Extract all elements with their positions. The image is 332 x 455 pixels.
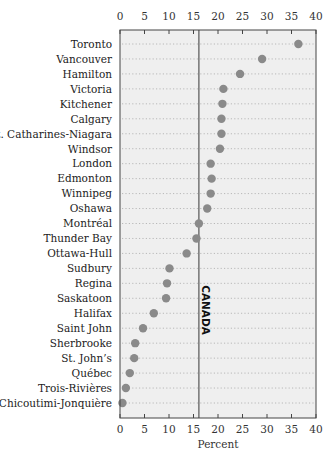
data-dot <box>294 40 302 48</box>
data-dot <box>218 100 226 108</box>
tick-label: 10 <box>162 423 175 435</box>
city-label: Calgary <box>70 113 112 125</box>
data-dot <box>206 159 214 167</box>
city-label: London <box>72 157 112 169</box>
tick-label: 35 <box>285 423 298 435</box>
city-label: Trois-Rivières <box>38 382 112 394</box>
dot-plot-chart: 0510152025303540 0510152025303540 CANADA… <box>0 0 332 455</box>
tick-label: 20 <box>211 423 224 435</box>
tick-label: 15 <box>187 10 200 22</box>
data-dot <box>182 249 190 257</box>
city-label: Ottawa-Hull <box>47 247 112 259</box>
city-label: Hamilton <box>63 68 113 80</box>
x-axis-title: Percent <box>198 438 240 450</box>
city-label: St. Catharines-Niagara <box>0 128 112 140</box>
tick-label: 5 <box>141 423 148 435</box>
tick-label: 40 <box>309 10 322 22</box>
tick-label: 30 <box>260 10 273 22</box>
city-label: Kitchener <box>60 98 113 110</box>
tick-label: 0 <box>117 423 124 435</box>
city-label: Chicoutimi-Jonquière <box>0 397 112 409</box>
tick-label: 25 <box>236 423 249 435</box>
city-label: Sherbrooke <box>50 337 112 349</box>
data-dot <box>217 115 225 123</box>
city-label: Thunder Bay <box>44 232 113 244</box>
city-label: Oshawa <box>70 202 112 214</box>
city-label: Saint John <box>57 322 112 334</box>
city-label: Regina <box>75 277 112 289</box>
city-label: Montréal <box>63 217 113 229</box>
data-dot <box>195 219 203 227</box>
data-dot <box>162 294 170 302</box>
data-dot <box>150 309 158 317</box>
city-label: Edmonton <box>57 172 112 184</box>
tick-label: 10 <box>162 10 175 22</box>
data-dot <box>206 189 214 197</box>
data-dot <box>203 204 211 212</box>
city-label: Saskatoon <box>57 292 112 304</box>
city-label: Winnipeg <box>61 187 112 199</box>
city-label: Vancouver <box>55 53 113 65</box>
city-label: Victoria <box>69 83 112 95</box>
data-dot <box>219 85 227 93</box>
tick-label: 35 <box>285 10 298 22</box>
city-label: Toronto <box>71 38 112 50</box>
city-label: Québec <box>72 367 113 379</box>
canada-reference-label: CANADA <box>200 285 212 335</box>
data-dot <box>207 174 215 182</box>
data-dot <box>258 55 266 63</box>
data-dot <box>122 384 130 392</box>
city-labels: TorontoVancouverHamiltonVictoriaKitchene… <box>0 38 113 409</box>
tick-label: 0 <box>117 10 124 22</box>
city-label: St. John’s <box>61 352 112 364</box>
city-label: Sudbury <box>67 262 112 274</box>
tick-label: 15 <box>187 423 200 435</box>
data-dot <box>165 264 173 272</box>
data-dot <box>163 279 171 287</box>
data-dot <box>126 369 134 377</box>
data-dot <box>139 324 147 332</box>
data-dot <box>217 130 225 138</box>
data-dot <box>131 339 139 347</box>
data-dot <box>192 234 200 242</box>
data-dot <box>130 354 138 362</box>
tick-label: 5 <box>141 10 148 22</box>
city-label: Halifax <box>74 307 112 319</box>
tick-label: 30 <box>260 423 273 435</box>
tick-label: 20 <box>211 10 224 22</box>
data-dot <box>236 70 244 78</box>
city-label: Windsor <box>68 143 113 155</box>
tick-label: 25 <box>236 10 249 22</box>
data-dot <box>216 145 224 153</box>
tick-label: 40 <box>309 423 322 435</box>
